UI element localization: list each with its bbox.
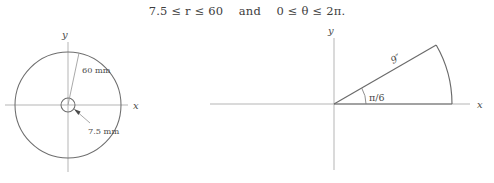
- x-axis-label: x: [133, 100, 139, 111]
- angle-arc-mark: [362, 88, 366, 104]
- sector-arc: [436, 45, 452, 104]
- outer-radius-label: 60 mm: [82, 65, 111, 75]
- sector-angle-label: π/6: [369, 92, 385, 103]
- x-axis-label: x: [477, 99, 483, 110]
- sector-radius-label: 9″: [389, 51, 403, 66]
- y-axis-label: y: [61, 29, 68, 40]
- sector-radius-edge: [334, 45, 436, 104]
- inner-radius-label: 7.5 mm: [88, 126, 119, 136]
- sector-figure: y x 9″ π/6: [205, 22, 494, 183]
- annulus-figure: y x 60 mm 7.5 mm: [0, 22, 170, 183]
- outer-radius-leader: [68, 53, 79, 105]
- y-axis-label: y: [327, 25, 334, 36]
- figure-page: 7.5 ≤ r ≤ 60 and 0 ≤ θ ≤ 2π. y x 60 mm 7…: [0, 0, 494, 183]
- polar-region-formula: 7.5 ≤ r ≤ 60 and 0 ≤ θ ≤ 2π.: [0, 4, 494, 18]
